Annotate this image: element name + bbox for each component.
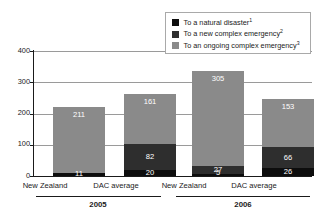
legend-footnote-marker: 2 bbox=[280, 28, 283, 34]
bar-segment-natural-disaster[interactable]: 11 bbox=[53, 173, 105, 176]
y-tick-label-100: 100 bbox=[4, 140, 30, 147]
category-label-dac-average-2005: DAC average bbox=[78, 181, 154, 190]
bar-segment-label: 305 bbox=[192, 75, 244, 83]
gridline-300 bbox=[34, 82, 312, 83]
legend-footnote-marker: 1 bbox=[249, 16, 252, 22]
legend-label-natural-disaster: To a natural disaster1 bbox=[184, 19, 253, 27]
y-tick-mark-300 bbox=[30, 82, 34, 83]
y-tick-mark-400 bbox=[30, 51, 34, 52]
legend-swatch-natural-disaster-icon bbox=[172, 19, 179, 26]
chart-legend: To a natural disaster1 To a new complex … bbox=[165, 12, 311, 54]
bar-segment-new-complex-emergency[interactable]: 82 bbox=[124, 144, 176, 170]
legend-swatch-new-complex-emergency-icon bbox=[172, 31, 179, 38]
bar-segment-ongoing-complex-emergency[interactable]: 161 bbox=[124, 94, 176, 144]
legend-label-ongoing-complex-emergency: To an ongoing complex emergency3 bbox=[184, 42, 300, 50]
y-tick-label-0: 0 bbox=[4, 172, 30, 179]
bar-segment-new-complex-emergency[interactable]: 66 bbox=[262, 147, 314, 168]
bar-segment-label: 211 bbox=[53, 111, 105, 119]
group-label-2005: 2005 bbox=[33, 200, 163, 209]
legend-footnote-marker: 3 bbox=[297, 40, 300, 46]
plot-area: 211 11 161 82 20 305 27 bbox=[34, 51, 312, 176]
legend-item-ongoing-complex-emergency[interactable]: To an ongoing complex emergency3 bbox=[172, 40, 305, 52]
y-tick-label-300: 300 bbox=[4, 78, 30, 85]
category-label-new-zealand-2005: New Zealand bbox=[7, 181, 83, 190]
stacked-bar-chart: 400 300 200 100 0 211 11 161 bbox=[0, 0, 322, 223]
y-tick-label-200: 200 bbox=[4, 109, 30, 116]
y-tick-mark-0 bbox=[30, 176, 34, 177]
legend-label-new-complex-emergency: To a new complex emergency2 bbox=[184, 30, 283, 38]
group-rule-2005 bbox=[36, 196, 161, 197]
group-label-2006: 2006 bbox=[178, 200, 308, 209]
bar-segment-ongoing-complex-emergency[interactable]: 153 bbox=[262, 99, 314, 147]
bar-segment-natural-disaster[interactable]: 20 bbox=[124, 170, 176, 176]
bar-segment-label: 161 bbox=[124, 98, 176, 106]
legend-swatch-ongoing-complex-emergency-icon bbox=[172, 42, 179, 49]
bar-segment-ongoing-complex-emergency[interactable]: 305 bbox=[192, 71, 244, 166]
bar-segment-label: 5 bbox=[192, 169, 244, 177]
y-tick-label-400: 400 bbox=[4, 47, 30, 54]
bar-segment-natural-disaster[interactable]: 5 bbox=[192, 174, 244, 176]
bar-segment-label: 20 bbox=[124, 169, 176, 177]
bar-segment-ongoing-complex-emergency[interactable]: 211 bbox=[53, 107, 105, 173]
bar-segment-label: 11 bbox=[53, 170, 105, 178]
legend-item-new-complex-emergency[interactable]: To a new complex emergency2 bbox=[172, 29, 305, 41]
y-tick-mark-200 bbox=[30, 114, 34, 115]
bar-segment-label: 82 bbox=[124, 153, 176, 161]
bar-segment-natural-disaster[interactable]: 26 bbox=[262, 168, 314, 176]
y-tick-mark-100 bbox=[30, 145, 34, 146]
legend-item-natural-disaster[interactable]: To a natural disaster1 bbox=[172, 17, 305, 29]
bar-segment-label: 153 bbox=[262, 103, 314, 111]
bar-segment-label: 66 bbox=[262, 154, 314, 162]
bar-segment-label: 26 bbox=[262, 168, 314, 176]
category-label-new-zealand-2006: New Zealand bbox=[146, 181, 222, 190]
group-rule-2006 bbox=[176, 196, 310, 197]
category-label-dac-average-2006: DAC average bbox=[216, 181, 292, 190]
